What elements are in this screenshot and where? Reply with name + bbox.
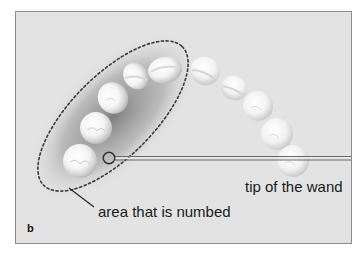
tooth-2	[80, 112, 112, 144]
numbed-shadow	[0, 4, 226, 230]
wand-tip-label: tip of the wand	[245, 179, 343, 194]
panel-letter: b	[27, 222, 34, 234]
tooth-10	[277, 145, 309, 177]
tooth-9	[261, 118, 293, 150]
tooth-1	[63, 144, 97, 178]
tooth-8	[243, 91, 273, 121]
numbed-area-label: area that is numbed	[98, 204, 231, 219]
